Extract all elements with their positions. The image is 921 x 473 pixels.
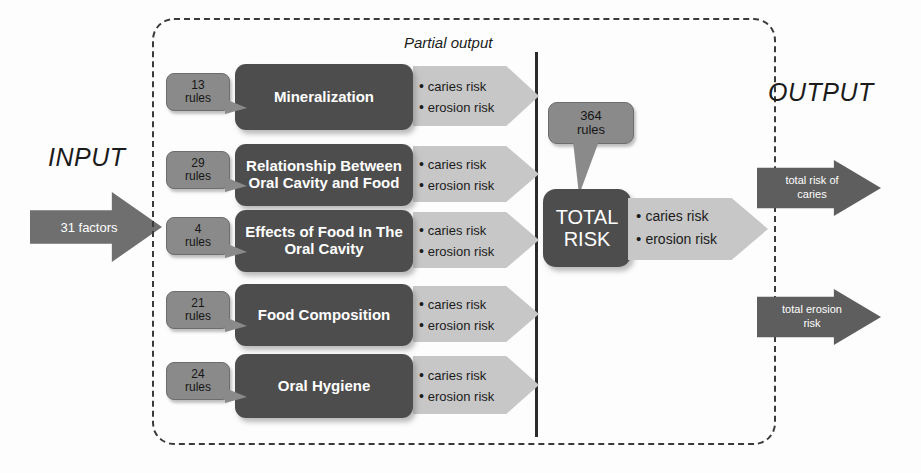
callout-tail-icon bbox=[225, 388, 247, 403]
rules-callout: 21rules bbox=[166, 291, 230, 329]
callout-tail-icon bbox=[573, 141, 599, 195]
module-box[interactable]: Food Composition bbox=[235, 284, 413, 346]
callout-tail-icon bbox=[225, 243, 247, 258]
total-rules-count: 364 bbox=[580, 109, 602, 123]
callout-tail-icon bbox=[225, 317, 247, 332]
rules-callout: 4rules bbox=[166, 217, 230, 255]
module-name: Mineralization bbox=[274, 89, 374, 106]
input-label: INPUT bbox=[48, 143, 126, 172]
stage-separator-line bbox=[535, 52, 538, 437]
module-name: Relationship Between Oral Cavity and Foo… bbox=[239, 158, 409, 192]
rules-unit: rules bbox=[185, 310, 211, 323]
rules-callout: 29rules bbox=[166, 151, 230, 189]
total-risk-title-line2: RISK bbox=[556, 228, 619, 250]
rules-unit: rules bbox=[185, 236, 211, 249]
rules-unit: rules bbox=[185, 92, 211, 105]
input-arrow bbox=[30, 192, 162, 262]
diagram-canvas: INPUT 31 factors Partial output Minerali… bbox=[0, 0, 921, 473]
module-name: Effects of Food In The Oral Cavity bbox=[239, 224, 409, 258]
output-label: OUTPUT bbox=[768, 78, 874, 107]
module-name: Oral Hygiene bbox=[278, 378, 371, 395]
module-box[interactable]: Relationship Between Oral Cavity and Foo… bbox=[235, 144, 413, 206]
module-box[interactable]: Oral Hygiene bbox=[235, 354, 413, 418]
module-name: Food Composition bbox=[258, 307, 390, 324]
total-rules-unit: rules bbox=[577, 123, 605, 137]
total-risk-box: TOTAL RISK bbox=[543, 189, 631, 267]
module-box[interactable]: Mineralization bbox=[235, 64, 413, 130]
callout-tail-icon bbox=[225, 99, 247, 114]
total-risk-title-line1: TOTAL bbox=[556, 206, 619, 228]
rules-callout: 24rules bbox=[166, 362, 230, 400]
callout-tail-icon bbox=[225, 177, 247, 192]
output-arrow-caries bbox=[757, 160, 881, 216]
rules-callout: 13rules bbox=[166, 73, 230, 111]
output-arrow-erosion bbox=[757, 289, 881, 345]
total-rules-callout: 364 rules bbox=[548, 102, 634, 144]
module-box[interactable]: Effects of Food In The Oral Cavity bbox=[235, 210, 413, 272]
rules-unit: rules bbox=[185, 170, 211, 183]
partial-output-label: Partial output bbox=[404, 34, 492, 51]
rules-unit: rules bbox=[185, 381, 211, 394]
